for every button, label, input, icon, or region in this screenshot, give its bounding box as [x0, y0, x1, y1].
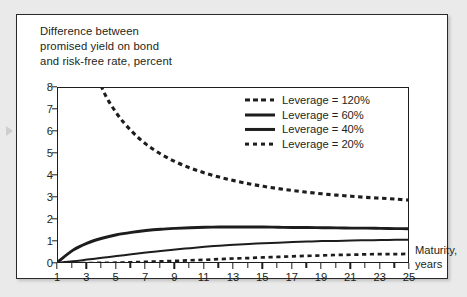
x-axis-tick-label: 7	[142, 271, 148, 283]
legend-item-label: Leverage = 60%	[282, 109, 364, 121]
x-axis-tick-minor	[188, 263, 189, 268]
y-axis-tick	[52, 196, 57, 197]
y-axis-tick-label: 3	[31, 191, 53, 203]
y-axis-tick	[52, 86, 57, 87]
page-background: Difference between promised yield on bon…	[0, 0, 467, 297]
x-axis-tick-major	[203, 263, 204, 269]
x-axis-tick-label: 1	[54, 271, 60, 283]
x-axis-tick-major	[115, 263, 116, 269]
y-axis-tick	[52, 130, 57, 131]
legend-item-label: Leverage = 40%	[282, 123, 364, 135]
x-axis-tick-major	[232, 263, 233, 269]
legend-item-label: Leverage = 120%	[282, 94, 370, 106]
y-axis-tick-label: 1	[31, 235, 53, 247]
y-axis-tick	[52, 152, 57, 153]
x-axis-tick-label: 19	[315, 271, 327, 283]
x-axis-tick-label: 25	[403, 271, 415, 283]
figure-title: Difference between promised yield on bon…	[40, 24, 340, 70]
legend-item-label: Leverage = 20%	[282, 138, 364, 150]
x-axis-tick-major	[86, 263, 87, 269]
x-axis-tick-major	[350, 263, 351, 269]
y-axis-tick	[52, 218, 57, 219]
figure-panel: Difference between promised yield on bon…	[16, 14, 448, 279]
x-axis-tick-major	[144, 263, 145, 269]
series-line-3	[58, 254, 408, 262]
y-axis-tick-label: 6	[31, 125, 53, 137]
y-axis-tick	[52, 108, 57, 109]
x-axis-tick-minor	[394, 263, 395, 268]
x-axis-tick-label: 13	[227, 271, 239, 283]
x-axis-tick-major	[174, 263, 175, 269]
y-axis-tick	[52, 240, 57, 241]
legend-swatch-dashed-thin	[245, 139, 275, 150]
x-axis-tick-label: 9	[171, 271, 177, 283]
y-axis-tick-label: 7	[31, 103, 53, 115]
x-axis-tick-minor	[335, 263, 336, 268]
legend-item[interactable]: Leverage = 120%	[245, 93, 370, 108]
y-axis-tick-label: 0	[31, 257, 53, 269]
x-axis-tick-major	[56, 263, 57, 269]
y-axis-tick-label: 2	[31, 213, 53, 225]
y-axis-tick-label: 4	[31, 169, 53, 181]
x-axis-tick-label: 3	[83, 271, 89, 283]
x-axis-tick-label: 17	[285, 271, 297, 283]
legend-item[interactable]: Leverage = 40%	[245, 122, 370, 137]
y-axis-tick	[52, 174, 57, 175]
legend-item[interactable]: Leverage = 20%	[245, 137, 370, 152]
x-axis-tick-major	[320, 263, 321, 269]
y-axis-tick-label: 8	[31, 81, 53, 93]
legend-item[interactable]: Leverage = 60%	[245, 108, 370, 123]
x-axis-tick-major	[262, 263, 263, 269]
x-axis-tick-minor	[247, 263, 248, 268]
x-axis-tick-label: 11	[198, 271, 210, 283]
x-axis-tick-minor	[71, 263, 72, 268]
x-axis-tick-label: 21	[344, 271, 356, 283]
margin-arrow-icon	[6, 126, 13, 136]
x-axis-tick-major	[379, 263, 380, 269]
x-axis-tick-label: 5	[113, 271, 119, 283]
x-axis-tick-label: 15	[256, 271, 268, 283]
legend-swatch-solid-thin	[245, 124, 275, 135]
x-axis-tick-minor	[306, 263, 307, 268]
y-axis-tick-label: 5	[31, 147, 53, 159]
legend-swatch-dashed-thick	[245, 95, 275, 106]
x-axis-tick-minor	[364, 263, 365, 268]
x-axis-tick-minor	[130, 263, 131, 268]
x-axis-tick-major	[408, 263, 409, 269]
x-axis-tick-label: 23	[373, 271, 385, 283]
x-axis-tick-minor	[218, 263, 219, 268]
legend-swatch-solid-thick	[245, 109, 275, 120]
x-axis-tick-minor	[100, 263, 101, 268]
x-axis-tick-major	[291, 263, 292, 269]
x-axis-title: Maturity, years	[415, 243, 457, 271]
x-axis-tick-minor	[276, 263, 277, 268]
chart-legend: Leverage = 120%Leverage = 60%Leverage = …	[245, 93, 370, 151]
x-axis-tick-minor	[159, 263, 160, 268]
